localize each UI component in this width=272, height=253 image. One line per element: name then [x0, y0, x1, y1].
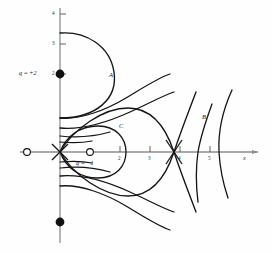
charge-negative-label: q = −1	[76, 160, 94, 166]
equipotential-left-upper-4	[60, 141, 92, 143]
charge-lower-dot	[56, 218, 65, 227]
equipotential-curve-b-lower	[174, 152, 196, 212]
x-tick-label-5: 5	[208, 155, 211, 161]
curve-label-c: C	[119, 123, 123, 130]
equipotential-left-lower-3	[60, 167, 110, 172]
x-tick-label-3: 3	[148, 155, 151, 161]
charge-positive-dot	[56, 70, 65, 79]
y-tick-label-3: 3	[52, 40, 55, 46]
x-axis-label: x	[243, 155, 246, 161]
curve-label-a: A	[109, 72, 113, 79]
equipotential-right-branch-2	[219, 90, 232, 198]
equipotential-figure: q = +2 q = −1 A B C 2 3 4 5 4 3 2 x	[0, 0, 272, 253]
separatrix-upper	[60, 108, 174, 152]
field-plot	[0, 0, 272, 253]
equipotential-left-lower-2	[60, 176, 174, 212]
equipotential-curve-a	[60, 33, 114, 118]
charge-positive-label: q = +2	[19, 70, 37, 76]
y-tick-label-2: 2	[52, 70, 55, 76]
equipotential-left-lower-1	[60, 186, 170, 230]
x-axis-arrow	[252, 150, 258, 154]
null-point-open-circle	[24, 149, 31, 156]
curve-label-b: B	[202, 114, 206, 121]
x-tick-label-2: 2	[118, 155, 121, 161]
y-tick-label-4: 4	[52, 10, 55, 16]
x-tick-label-4: 4	[178, 155, 181, 161]
equipotential-left-upper-3	[60, 132, 110, 137]
axis-group	[20, 8, 258, 243]
charge-negative-open-circle	[87, 149, 94, 156]
equipotential-curve-b-upper	[174, 92, 196, 152]
equipotential-left-upper-2	[60, 92, 174, 128]
